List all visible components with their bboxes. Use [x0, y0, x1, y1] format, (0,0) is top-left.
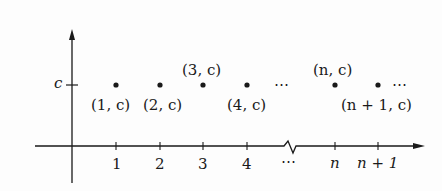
point-label-n1c: (n + 1, c)	[341, 98, 412, 113]
point-label-1c: (1, c)	[91, 98, 130, 113]
point-label-4c: (4, c)	[227, 98, 266, 113]
x-tick-label-n: n	[330, 156, 340, 171]
point-n	[332, 82, 337, 87]
point-2	[157, 82, 162, 87]
point-1	[113, 82, 118, 87]
point-label-3c: (3, c)	[182, 63, 221, 78]
x-tick-label-ellipsis: ⋯	[281, 154, 296, 169]
point-n1	[375, 82, 380, 87]
point-label-2c: (2, c)	[143, 98, 182, 113]
x-tick-label-4: 4	[242, 157, 252, 172]
x-tick-label-1: 1	[112, 157, 122, 172]
point-label-nc: (n, c)	[313, 63, 352, 78]
x-axis-arrow-icon	[413, 143, 425, 149]
point-4	[244, 82, 249, 87]
ellipsis-end: ⋯	[392, 77, 407, 92]
x-tick-label-2: 2	[155, 157, 165, 172]
point-3	[200, 82, 205, 87]
y-axis-label-c: c	[54, 76, 62, 91]
x-axis	[35, 141, 418, 153]
constant-sequence-diagram: c 1 2 3 4 ⋯ n n + 1 (1, c) (2, c) (3, c)…	[0, 0, 442, 191]
ellipsis-middle: ⋯	[274, 77, 289, 92]
x-tick-label-n-plus-1: n + 1	[357, 156, 398, 171]
x-tick-label-3: 3	[198, 157, 208, 172]
y-axis-arrow-icon	[69, 29, 75, 40]
